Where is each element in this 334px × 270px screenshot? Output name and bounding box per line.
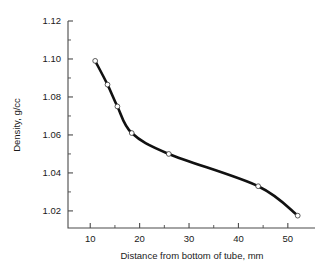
x-tick-label: 10 [85, 233, 96, 244]
data-point-marker [105, 82, 110, 87]
y-tick-label: 1.10 [43, 53, 62, 64]
chart-figure: 1020304050 1.021.041.061.081.101.12 Dist… [0, 0, 334, 270]
axis-spines [68, 21, 315, 228]
data-point-marker [129, 131, 134, 136]
x-axis-ticks [90, 223, 288, 228]
y-axis-ticks [68, 21, 73, 211]
y-axis-tick-labels: 1.021.041.061.081.101.12 [43, 15, 62, 216]
density-line-chart: 1020304050 1.021.041.061.081.101.12 Dist… [0, 0, 334, 270]
density-curve [95, 61, 298, 216]
data-point-marker [256, 184, 261, 189]
x-axis-title: Distance from bottom of tube, mm [120, 250, 263, 261]
y-axis-title: Density, g/cc [11, 98, 22, 152]
y-tick-label: 1.02 [43, 205, 62, 216]
y-tick-label: 1.04 [43, 167, 62, 178]
data-point-markers [93, 58, 300, 218]
y-tick-label: 1.12 [43, 15, 62, 26]
axes [68, 21, 315, 228]
data-point-marker [166, 152, 171, 157]
y-tick-label: 1.08 [43, 91, 62, 102]
data-point-marker [115, 104, 120, 109]
x-axis-tick-labels: 1020304050 [85, 233, 293, 244]
data-point-marker [295, 213, 300, 218]
x-tick-label: 40 [233, 233, 244, 244]
y-tick-label: 1.06 [43, 129, 62, 140]
data-point-marker [93, 58, 98, 63]
x-tick-label: 30 [184, 233, 195, 244]
x-tick-label: 50 [283, 233, 294, 244]
x-tick-label: 20 [134, 233, 145, 244]
